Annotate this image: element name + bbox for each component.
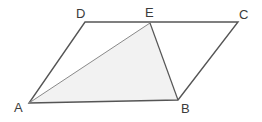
vertex-label-D: D [76, 7, 85, 20]
vertex-label-B: B [181, 102, 190, 115]
vertex-label-E: E [145, 6, 154, 19]
geometry-figure: D E C A B [0, 0, 262, 122]
vertex-label-C: C [239, 8, 248, 21]
vertex-label-A: A [14, 101, 23, 114]
shaded-triangle-ABE [29, 23, 178, 103]
geometry-drawing-surface [0, 0, 262, 122]
